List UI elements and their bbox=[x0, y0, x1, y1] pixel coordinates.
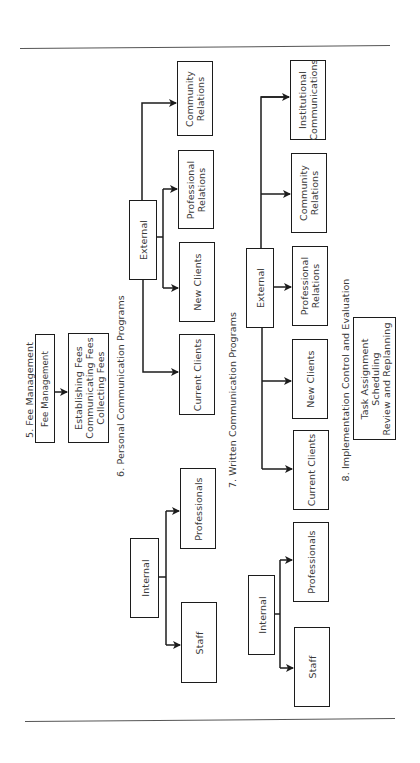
org-diagram: 5. Fee Management Fee Management Establi… bbox=[0, 0, 420, 763]
personal-professional-relations-box: Professional Relations bbox=[178, 150, 214, 229]
written-current-clients-box: Current Clients bbox=[293, 430, 329, 510]
implementation-tasks-box: Task Assignment Scheduling Review and Re… bbox=[353, 317, 396, 440]
implementation-item-task-assignment: Task Assignment bbox=[358, 322, 369, 435]
personal-professionals-label: Professionals bbox=[193, 477, 204, 540]
written-community-relations-line2: Relations bbox=[309, 165, 320, 221]
fee-activities-box: Establishing Fees Communicating Fees Col… bbox=[68, 333, 109, 443]
fee-management-label: Fee Management bbox=[40, 351, 50, 427]
written-internal-label: Internal bbox=[256, 596, 267, 633]
written-institutional-line1: Institutional bbox=[297, 59, 308, 140]
personal-current-clients-label: Current Clients bbox=[192, 338, 203, 411]
fee-activity-collecting: Collecting Fees bbox=[94, 337, 105, 439]
personal-staff-box: Staff bbox=[181, 602, 217, 683]
written-institutional-line2: Communications bbox=[308, 59, 319, 140]
written-new-clients-box: New Clients bbox=[292, 339, 328, 419]
written-external-label: External bbox=[255, 268, 266, 308]
written-professional-relations-box: Professional Relations bbox=[292, 246, 328, 326]
written-staff-box: Staff bbox=[294, 627, 330, 707]
implementation-item-review: Review and Replanning bbox=[380, 322, 391, 435]
written-community-relations-line1: Community bbox=[298, 165, 309, 221]
written-professionals-label: Professionals bbox=[306, 530, 317, 593]
written-professional-relations-line2: Relations bbox=[310, 257, 321, 315]
written-external-box: External bbox=[246, 248, 274, 328]
personal-internal-label: Internal bbox=[139, 559, 150, 596]
implementation-section-title-text: 8. Implementation Control and Evaluation bbox=[340, 279, 351, 482]
written-professionals-box: Professionals bbox=[293, 522, 329, 602]
personal-professional-relations-line1: Professional bbox=[185, 160, 196, 218]
personal-internal-box: Internal bbox=[130, 538, 159, 618]
personal-external-label: External bbox=[138, 220, 149, 260]
written-section-title-text: 7. Written Communication Programs bbox=[227, 312, 238, 488]
written-institutional-communications-box: Institutional Communications bbox=[290, 60, 326, 140]
implementation-item-scheduling: Scheduling bbox=[369, 322, 380, 435]
fee-activity-establishing: Establishing Fees bbox=[72, 337, 83, 439]
personal-community-relations-box: Community Relations bbox=[177, 61, 213, 136]
personal-professionals-box: Professionals bbox=[180, 468, 216, 549]
personal-professional-relations-line2: Relations bbox=[196, 160, 207, 218]
personal-current-clients-box: Current Clients bbox=[179, 334, 215, 415]
personal-community-relations-line1: Community bbox=[184, 71, 195, 127]
personal-section-title-text: 6. Personal Communication Programs bbox=[115, 295, 126, 477]
fee-section-title-text: 5. Fee Management bbox=[24, 342, 35, 438]
personal-external-box: External bbox=[129, 200, 157, 280]
bottom-rule bbox=[25, 718, 395, 722]
written-staff-label: Staff bbox=[307, 656, 318, 679]
fee-management-box: Fee Management bbox=[35, 334, 55, 443]
fee-activity-communicating: Communicating Fees bbox=[83, 337, 94, 439]
personal-staff-label: Staff bbox=[194, 631, 205, 654]
personal-new-clients-box: New Clients bbox=[179, 242, 215, 322]
written-current-clients-label: Current Clients bbox=[306, 434, 317, 507]
written-community-relations-box: Community Relations bbox=[291, 153, 327, 233]
written-internal-box: Internal bbox=[248, 575, 275, 655]
written-professional-relations-line1: Professional bbox=[299, 257, 310, 315]
top-rule bbox=[20, 45, 390, 49]
personal-community-relations-line2: Relations bbox=[195, 71, 206, 127]
personal-new-clients-label: New Clients bbox=[192, 253, 203, 310]
written-new-clients-label: New Clients bbox=[305, 350, 316, 407]
